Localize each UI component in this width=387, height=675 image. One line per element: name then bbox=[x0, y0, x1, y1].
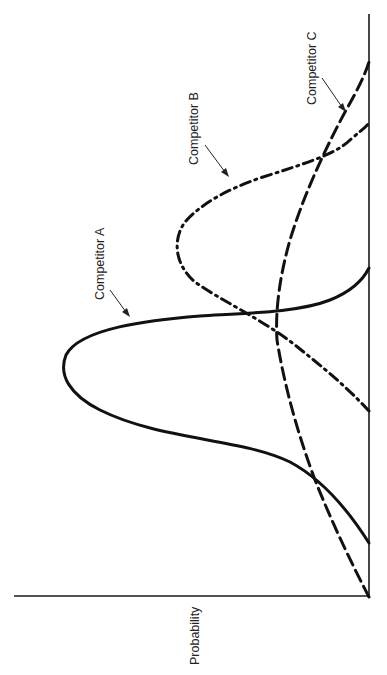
competitor-b-arrow bbox=[205, 145, 229, 177]
competitor-c-label: Competitor C bbox=[305, 31, 319, 105]
competitor-c-curve bbox=[277, 62, 369, 597]
competitor-a-curve bbox=[64, 268, 369, 543]
competitor-probability-chart: Competitor A Competitor B Competitor C P… bbox=[0, 0, 387, 675]
competitor-b-curve bbox=[177, 123, 369, 411]
competitor-c-arrow bbox=[322, 78, 346, 112]
probability-axis-label: Probability bbox=[188, 606, 202, 665]
competitor-a-arrow bbox=[110, 290, 130, 317]
competitor-a-label: Competitor A bbox=[93, 227, 107, 300]
competitor-b-label: Competitor B bbox=[187, 92, 201, 165]
